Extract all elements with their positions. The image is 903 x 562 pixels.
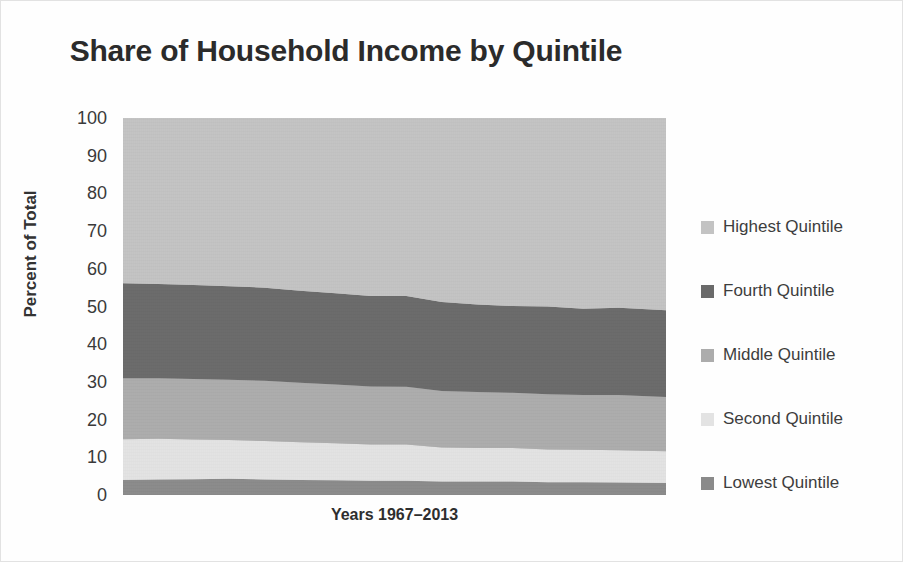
legend-item-label: Fourth Quintile	[723, 281, 835, 301]
y-axis-tick-30: 30	[53, 371, 107, 392]
y-axis-tick-labels: 1009080706050403020100	[53, 118, 113, 495]
y-axis-tick-10: 10	[53, 447, 107, 468]
y-axis-tick-100: 100	[53, 108, 107, 129]
legend-item-label: Second Quintile	[723, 409, 843, 429]
legend-item-middle-quintile[interactable]: Middle Quintile	[701, 341, 897, 369]
y-axis-tick-90: 90	[53, 145, 107, 166]
y-axis-tick-80: 80	[53, 183, 107, 204]
legend-swatch-icon	[701, 221, 714, 234]
chart-figure: Share of Household Income by Quintile Pe…	[0, 0, 903, 562]
legend-item-lowest-quintile[interactable]: Lowest Quintile	[701, 469, 897, 497]
legend-item-label: Middle Quintile	[723, 345, 835, 365]
legend-swatch-icon	[701, 413, 714, 426]
legend-item-second-quintile[interactable]: Second Quintile	[701, 405, 897, 433]
legend-item-label: Lowest Quintile	[723, 473, 839, 493]
legend-item-fourth-quintile[interactable]: Fourth Quintile	[701, 277, 897, 305]
plot-area	[123, 118, 666, 495]
y-axis-tick-50: 50	[53, 296, 107, 317]
legend-swatch-icon	[701, 477, 714, 490]
stacked-area-plot	[123, 118, 666, 495]
area-band-highest-quintile	[123, 118, 666, 310]
y-axis-title: Percent of Total	[21, 184, 41, 324]
legend-swatch-icon	[701, 285, 714, 298]
legend-item-label: Highest Quintile	[723, 217, 843, 237]
y-axis-tick-0: 0	[53, 485, 107, 506]
legend-swatch-icon	[701, 349, 714, 362]
y-axis-tick-40: 40	[53, 334, 107, 355]
y-axis-tick-70: 70	[53, 221, 107, 242]
legend-item-highest-quintile[interactable]: Highest Quintile	[701, 213, 897, 241]
y-axis-tick-20: 20	[53, 409, 107, 430]
chart-legend: Highest QuintileFourth QuintileMiddle Qu…	[701, 213, 897, 497]
chart-title: Share of Household Income by Quintile	[1, 34, 691, 68]
y-axis-tick-60: 60	[53, 258, 107, 279]
x-axis-title: Years 1967–2013	[123, 506, 666, 524]
